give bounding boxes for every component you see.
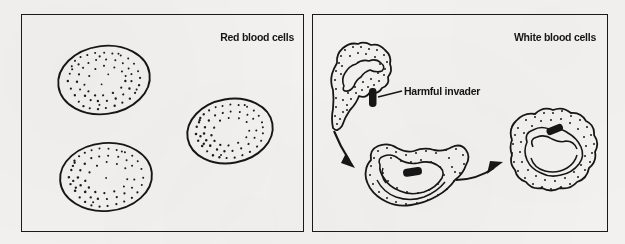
figure-root: Red blood cells White blood cells Harmfu… <box>0 0 625 244</box>
panel-title-white-blood-cells: White blood cells <box>514 31 596 43</box>
panel-title-red-blood-cells: Red blood cells <box>220 31 294 43</box>
panel-red-blood-cells: Red blood cells <box>21 14 304 232</box>
harmful-invader-label: Harmful invader <box>404 85 480 97</box>
panel-white-blood-cells: White blood cells <box>312 14 608 232</box>
